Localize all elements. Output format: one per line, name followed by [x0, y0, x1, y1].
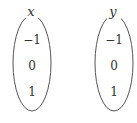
set-y-element: 1	[110, 85, 118, 99]
set-diagram: x −1 0 1 y −1 0 1	[0, 0, 137, 123]
set-y-element: 0	[110, 59, 118, 73]
set-x: x −1 0 1	[13, 4, 51, 111]
set-x-element: 0	[28, 59, 36, 73]
set-x-label: x	[27, 4, 35, 19]
set-x-element: 1	[28, 85, 36, 99]
set-y: y −1 0 1	[95, 4, 133, 111]
set-y-label: y	[108, 4, 117, 19]
set-y-element: −1	[105, 33, 123, 47]
set-x-element: −1	[23, 33, 41, 47]
